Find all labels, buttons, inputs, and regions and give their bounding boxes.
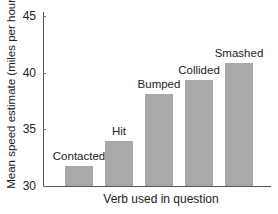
x-axis-label: Verb used in question [103, 192, 218, 206]
bar-smashed [225, 63, 253, 186]
y-tick [43, 186, 46, 187]
y-tick [43, 73, 46, 74]
bar-contacted [65, 166, 93, 186]
y-tick-label: 40 [23, 66, 36, 80]
bar-label: Bumped [138, 78, 181, 90]
bar-label: Collided [178, 64, 220, 76]
y-tick [43, 16, 46, 17]
y-tick-label: 45 [23, 9, 36, 23]
bar-chart: Mean speed estimate (miles per hour) Ver… [0, 0, 278, 214]
y-tick-label: 30 [23, 179, 36, 193]
bar-label: Hit [112, 125, 126, 137]
bar-bumped [145, 94, 173, 186]
y-tick [43, 129, 46, 130]
bar-hit [105, 141, 133, 186]
bar-collided [185, 80, 213, 186]
x-axis-line [43, 186, 271, 187]
y-tick-label: 35 [23, 122, 36, 136]
y-axis-line [43, 12, 44, 187]
bar-label: Smashed [215, 47, 264, 59]
bar-label: Contacted [53, 150, 105, 162]
y-axis-label: Mean speed estimate (miles per hour) [5, 0, 17, 189]
